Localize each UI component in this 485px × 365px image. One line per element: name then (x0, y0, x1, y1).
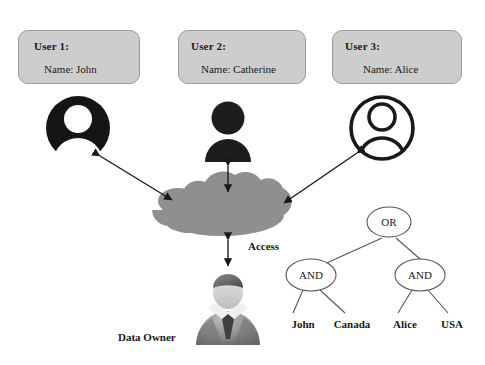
cloud-icon (152, 171, 292, 236)
connector-user1-cloud (100, 156, 172, 200)
user-avatar-inverted-icon (44, 96, 112, 165)
policy-node-and-left-label: AND (299, 269, 323, 281)
user-avatar-solid-icon (205, 102, 251, 163)
policy-node-and-left: AND (286, 259, 336, 291)
policy-node-and-right: AND (395, 259, 445, 291)
diagram-canvas: User 1: Name: John User 2: Name: Catheri… (0, 0, 485, 365)
policy-node-or: OR (367, 207, 411, 237)
businessman-icon (196, 274, 260, 345)
scene-vectors: OR AND AND (0, 0, 485, 365)
user-avatar-outline-icon (351, 97, 413, 159)
policy-node-and-right-label: AND (408, 269, 432, 281)
connector-user3-cloud (284, 153, 357, 203)
policy-node-or-label: OR (381, 216, 397, 228)
